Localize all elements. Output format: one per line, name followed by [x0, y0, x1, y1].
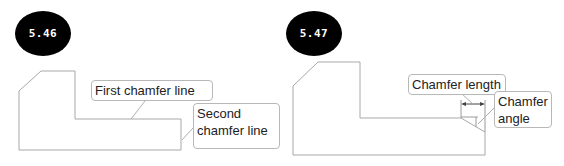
callout-first-chamfer-line: First chamfer line	[91, 80, 213, 101]
leader-chamfer-angle	[478, 108, 494, 124]
leader-chamfer-length	[462, 94, 473, 104]
callout-second-chamfer-line: Second chamfer line	[193, 103, 280, 149]
callout-chamfer-length: Chamfer length	[408, 74, 506, 95]
callout-chamfer-angle: Chamfer angle	[494, 91, 552, 128]
callout-text-line: Chamfer	[498, 93, 548, 110]
callout-text-line: Second	[197, 105, 276, 122]
leader-second-chamfer	[182, 128, 193, 140]
figure-badge-5-47: 5.47	[286, 11, 342, 56]
arrow-right-icon	[480, 102, 485, 106]
leader-first-chamfer	[131, 101, 145, 119]
callout-text-line: angle	[498, 110, 548, 127]
arrow-left-icon	[461, 102, 466, 106]
callout-text-line: chamfer line	[197, 122, 276, 139]
figure-badge-5-46: 5.46	[15, 11, 71, 56]
